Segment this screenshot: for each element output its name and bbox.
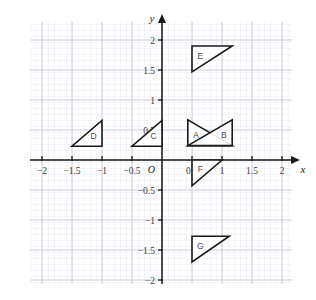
y-tick-label: 2	[150, 36, 155, 46]
x-tick-label: −0.5	[123, 166, 140, 176]
origin-label: O	[148, 164, 155, 175]
triangle-label-g: G	[197, 241, 204, 251]
grid-layer	[30, 22, 292, 284]
x-tick-label: −1	[97, 166, 107, 176]
x-tick-label: 1.5	[246, 166, 258, 176]
triangle-label-a: A	[193, 130, 199, 140]
triangle-label-d: D	[91, 131, 97, 141]
triangle-label-f: F	[198, 164, 203, 174]
x-tick-label: 2	[280, 166, 285, 176]
x-tick-label: 1	[220, 166, 225, 176]
y-axis-label: y	[149, 12, 155, 24]
coordinate-plane-figure: −2−1.5−1−0.50.511.5221.510.5−0.5−1−1.5−2…	[0, 0, 316, 300]
x-tick-label: −1.5	[63, 166, 80, 176]
y-tick-label: −1	[145, 216, 155, 226]
triangle-label-e: E	[198, 51, 204, 61]
x-axis-label: x	[300, 163, 306, 175]
x-tick-label: −2	[37, 166, 47, 176]
plot-canvas: −2−1.5−1−0.50.511.5221.510.5−0.5−1−1.5−2…	[0, 0, 316, 300]
y-tick-label: −2	[145, 276, 155, 286]
y-tick-label: 1	[150, 96, 155, 106]
triangle-label-c: C	[151, 131, 157, 141]
triangle-label-b: B	[221, 130, 227, 140]
y-tick-label: −1.5	[138, 246, 155, 256]
y-tick-label: 1.5	[143, 66, 155, 76]
y-tick-label: −0.5	[138, 186, 155, 196]
